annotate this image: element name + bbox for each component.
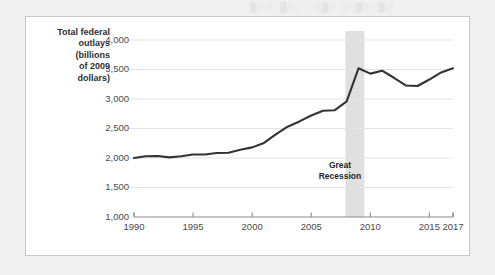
- y-tick-label-4,000: 4,000: [85, 34, 129, 45]
- plot-stage: Total federaloutlays(billionsof 2009doll…: [26, 17, 469, 255]
- x-tick-label-2015: 2015: [419, 221, 440, 232]
- chart-panel: Total federaloutlays(billionsof 2009doll…: [25, 16, 470, 256]
- x-tick-label-1995: 1995: [182, 221, 203, 232]
- annotation-line-0: Great: [305, 160, 375, 171]
- data-line-total-federal-outlays: [134, 68, 453, 158]
- x-tick-label-2005: 2005: [301, 221, 322, 232]
- y-tick-label-3,500: 3,500: [85, 63, 129, 74]
- y-tick-label-3,000: 3,000: [85, 93, 129, 104]
- x-tick-label-2000: 2000: [242, 221, 263, 232]
- great-recession-band: [345, 31, 364, 217]
- x-tick-label-1990: 1990: [123, 221, 144, 232]
- background-ghost-text: █░▒░█▒░ ░▒█░ ▒░█▒░█▒: [250, 2, 490, 14]
- y-tick-label-1,000: 1,000: [85, 211, 129, 222]
- y-tick-label-2,500: 2,500: [85, 122, 129, 133]
- x-tick-label-2017: 2017: [442, 221, 463, 232]
- annotation-line-1: Recession: [305, 171, 375, 182]
- y-tick-label-2,000: 2,000: [85, 152, 129, 163]
- y-tick-label-1,500: 1,500: [85, 181, 129, 192]
- x-tick-label-2010: 2010: [360, 221, 381, 232]
- great-recession-annotation-label: GreatRecession: [305, 160, 375, 181]
